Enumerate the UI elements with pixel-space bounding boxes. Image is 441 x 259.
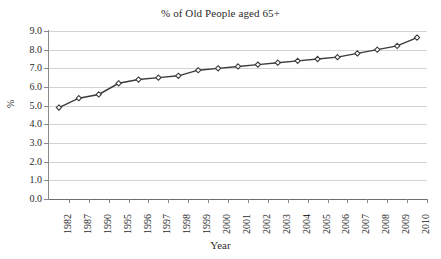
data-point-marker	[275, 60, 280, 65]
data-point-marker	[375, 47, 380, 52]
data-point-marker	[395, 43, 400, 48]
data-point-marker	[315, 56, 320, 61]
data-point-marker	[176, 73, 181, 78]
series-layer	[0, 0, 441, 259]
data-point-marker	[136, 77, 141, 82]
data-point-marker	[216, 66, 221, 71]
data-point-marker	[235, 64, 240, 69]
data-point-marker	[295, 58, 300, 63]
series-markers	[56, 35, 419, 110]
chart-container: % of Old People aged 65+ 0.01.02.03.04.0…	[0, 0, 441, 259]
data-point-marker	[196, 68, 201, 73]
data-point-marker	[355, 51, 360, 56]
data-point-marker	[56, 105, 61, 110]
data-point-marker	[255, 62, 260, 67]
data-point-marker	[76, 96, 81, 101]
data-point-marker	[414, 35, 419, 40]
data-point-marker	[335, 55, 340, 60]
series-line	[59, 38, 417, 108]
data-point-marker	[156, 75, 161, 80]
